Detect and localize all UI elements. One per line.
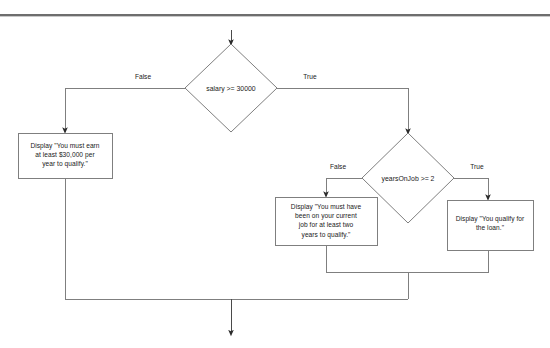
edge-label-salary-false: False bbox=[123, 73, 163, 81]
edge-salary-false bbox=[65, 88, 185, 131]
edge-salary-true bbox=[277, 88, 408, 132]
edge-qualify-merge bbox=[408, 250, 488, 272]
edge-label-years-false: False bbox=[318, 163, 358, 171]
edge-years-false bbox=[326, 178, 362, 195]
edge-label-salary-true: True bbox=[290, 73, 330, 81]
process-tenure-message[interactable] bbox=[275, 197, 377, 245]
decision-salary[interactable] bbox=[185, 44, 277, 132]
edge-tenure-merge bbox=[326, 245, 408, 272]
flowchart-canvas: salary >= 30000 Display "You must earn a… bbox=[0, 0, 550, 348]
process-earn-message[interactable] bbox=[18, 133, 112, 178]
process-qualify-message[interactable] bbox=[447, 200, 533, 250]
edge-label-years-true: True bbox=[457, 163, 497, 171]
edge-years-true bbox=[454, 178, 488, 198]
